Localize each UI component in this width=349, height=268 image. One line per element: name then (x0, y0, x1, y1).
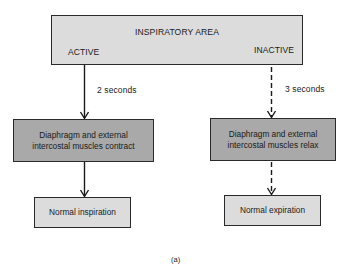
active-duration-label: 2 seconds (97, 85, 137, 95)
muscles-contract-box: Diaphragm and external intercostal muscl… (13, 119, 154, 162)
normal-inspiration-box: Normal inspiration (34, 197, 131, 228)
normal-expiration-box: Normal expiration (224, 195, 321, 226)
inactive-duration-label: 3 seconds (285, 84, 325, 94)
muscles-relax-line2: intercostal muscles relax (228, 140, 319, 151)
normal-expiration-label: Normal expiration (240, 205, 305, 216)
muscles-contract-line1: Diaphragm and external (39, 130, 128, 141)
figure-caption: (a) (171, 255, 180, 264)
muscles-contract-line2: intercostal muscles contract (32, 141, 134, 152)
muscles-relax-box: Diaphragm and external intercostal muscl… (210, 118, 336, 161)
muscles-relax-line1: Diaphragm and external (229, 129, 318, 140)
normal-inspiration-label: Normal inspiration (49, 207, 116, 218)
